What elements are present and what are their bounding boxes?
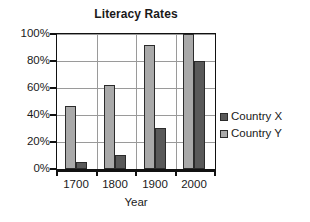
x-axis-tick-label-2000: 2000	[172, 178, 216, 191]
plot-area	[56, 33, 216, 170]
gridline-vertical	[176, 34, 177, 169]
legend-swatch-icon-country-y	[220, 130, 228, 138]
legend-item-country-y[interactable]: Country Y	[220, 125, 282, 142]
y-axis-tick-mark	[50, 33, 56, 35]
y-axis-tick-mark	[50, 141, 56, 143]
y-axis-tick-label: 20%	[4, 135, 50, 147]
y-axis-tick-mark	[50, 114, 56, 116]
x-axis-tick-label-1800: 1800	[93, 178, 137, 191]
chart-legend: Country X Country Y	[220, 108, 282, 142]
x-axis-line	[56, 170, 216, 172]
bar-country-x-1700[interactable]	[76, 162, 87, 169]
y-axis-tick-label: 0%	[4, 162, 50, 174]
y-axis-tick-mark	[50, 87, 56, 89]
legend-swatch-icon-country-x	[220, 113, 228, 121]
bar-country-x-1800[interactable]	[115, 155, 126, 169]
gridline-vertical	[97, 34, 98, 169]
legend-label-country-y: Country Y	[231, 127, 282, 140]
y-axis-tick-label: 60%	[4, 81, 50, 93]
bar-country-y-1700[interactable]	[65, 106, 76, 169]
gridline-vertical	[136, 34, 137, 169]
bar-country-y-2000[interactable]	[183, 34, 194, 169]
bar-country-y-1900[interactable]	[144, 45, 155, 169]
bar-country-x-2000[interactable]	[194, 61, 205, 169]
legend-label-country-x: Country X	[231, 110, 282, 123]
y-axis-tick-mark	[50, 60, 56, 62]
chart-title: Literacy Rates	[56, 7, 216, 21]
legend-item-country-x[interactable]: Country X	[220, 108, 282, 125]
literacy-rates-bar-chart: Literacy Rates 0%20%40%60%80%100%1700180…	[0, 0, 310, 222]
x-axis-title: Year	[56, 196, 216, 208]
bar-country-y-1800[interactable]	[104, 85, 115, 169]
y-axis-tick-label: 40%	[4, 108, 50, 120]
plot-inner	[57, 34, 215, 169]
y-axis-tick-label: 100%	[4, 27, 50, 39]
bar-country-x-1900[interactable]	[155, 128, 166, 169]
y-axis-tick-label: 80%	[4, 54, 50, 66]
x-axis-tick-label-1900: 1900	[133, 178, 177, 191]
x-axis-tick-label-1700: 1700	[54, 178, 98, 191]
